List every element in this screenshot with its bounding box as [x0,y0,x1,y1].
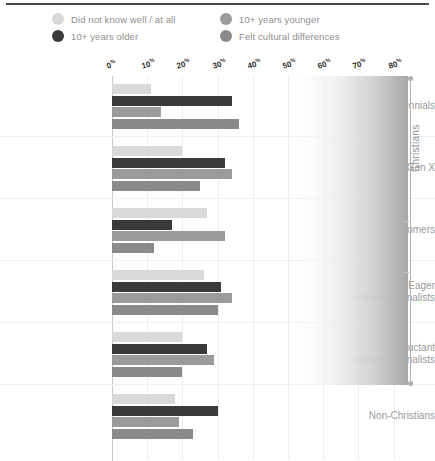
legend-item-10-years-younger[interactable]: 10+ years younger [220,13,320,25]
x-tick-10: 10% [140,57,156,71]
bar [112,243,154,253]
legend-label: 10+ years older [71,31,138,42]
bar [112,367,182,377]
christians-bracket [408,76,414,386]
legend-swatch-icon [220,13,232,25]
legend-swatch-icon [220,30,232,42]
legend-label: Felt cultural differences [239,31,340,42]
bar [112,332,182,342]
bar [112,282,221,292]
bar [112,84,151,94]
bracket-nub-icon [403,221,409,222]
legend-item-felt-cultural-differences[interactable]: Felt cultural differences [220,30,340,42]
top-divider-rule [6,3,429,5]
bar [112,146,182,156]
x-tick-30: 30% [211,57,227,71]
x-tick-80: 80% [387,57,403,71]
bar [112,305,218,315]
bar [112,220,172,230]
x-tick-20: 20% [175,57,191,71]
legend-item-10-years-older[interactable]: 10+ years older [52,30,138,42]
chart-legend: Did not know well / at all 10+ years old… [52,13,382,47]
x-tick-50: 50% [281,57,297,71]
chart-canvas: Did not know well / at all 10+ years old… [0,0,435,461]
bracket-cap-bottom-icon [408,381,413,386]
bar [112,119,239,129]
bar [112,344,207,354]
legend-swatch-icon [52,13,64,25]
bar [112,355,214,365]
bar [112,181,200,191]
bar [112,231,225,241]
bar [112,270,204,280]
legend-item-did-not-know-well[interactable]: Did not know well / at all [52,13,176,25]
x-tick-60: 60% [316,57,332,71]
bar [112,406,218,416]
bar [112,417,179,427]
bar [112,208,207,218]
legend-swatch-icon [52,30,64,42]
bar [112,96,232,106]
bracket-cap-top-icon [408,76,413,81]
x-tick-70: 70% [351,57,367,71]
x-tick-0: 0% [105,58,117,71]
x-tick-40: 40% [246,57,262,71]
legend-label: Did not know well / at all [71,14,176,25]
plot-area [112,76,394,461]
bar [112,169,232,179]
x-axis-tick-labels: 0%10%20%30%40%50%60%70%80% [0,52,435,72]
legend-label: 10+ years younger [239,14,320,25]
christians-bracket-label: Christians [410,125,421,172]
bar [112,107,161,117]
bar [112,158,225,168]
bracket-nub-icon [403,272,409,273]
bar [112,429,193,439]
bar [112,394,175,404]
bar [112,293,232,303]
